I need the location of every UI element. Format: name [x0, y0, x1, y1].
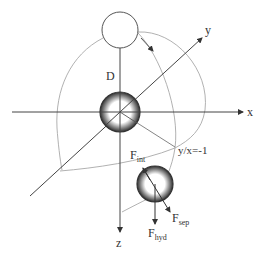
center-particle [100, 92, 140, 132]
force-hyd-sub: hyd [155, 233, 167, 242]
orbit-arc-right-outer [138, 32, 205, 148]
force-hyd-label: Fhyd [148, 226, 167, 242]
diagram-canvas: x y z D y/x=-1 Fint Fsep Fhyd [0, 0, 269, 255]
force-diagram: x y z D y/x=-1 Fint Fsep Fhyd [0, 0, 269, 255]
x-axis-label: x [247, 105, 253, 119]
force-int-label: Fint [130, 148, 146, 164]
y-axis-label: y [205, 23, 211, 37]
z-axis-label: z [116, 236, 121, 250]
orbit-direction-arrow [141, 38, 153, 51]
force-int-sub: int [137, 155, 146, 164]
distance-label: D [106, 69, 115, 83]
top-particle [102, 12, 138, 48]
boundary-label: y/x=-1 [178, 144, 207, 156]
force-sep-label: Fsep [172, 211, 189, 227]
force-sep-sub: sep [179, 218, 190, 227]
